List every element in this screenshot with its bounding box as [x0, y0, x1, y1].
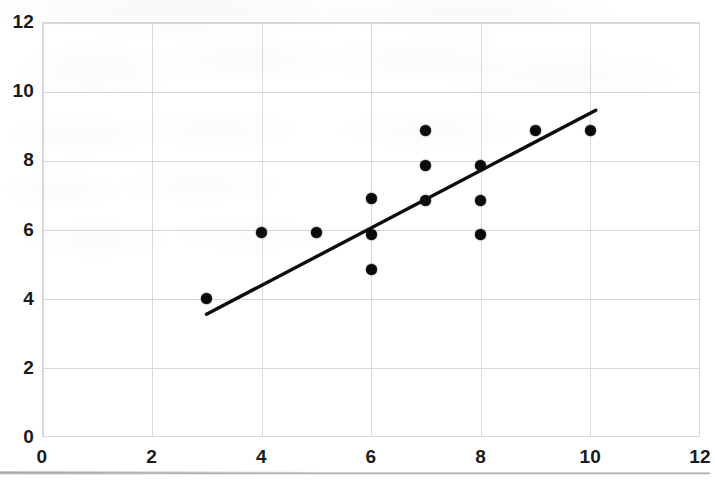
- page-edge-shadow: [0, 472, 710, 475]
- trendline-segment: [207, 110, 596, 314]
